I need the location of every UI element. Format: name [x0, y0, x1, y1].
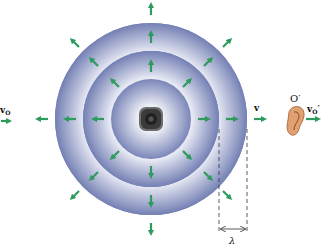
- observer-right-label: O′: [290, 94, 300, 104]
- ear-icon: [287, 106, 304, 135]
- wave-velocity-label: v: [254, 104, 259, 113]
- observer-right-velocity-label: vO′: [307, 105, 320, 115]
- wavelength-label: λ: [229, 236, 235, 246]
- doppler-diagram: [0, 0, 333, 251]
- observer-left-velocity-label: vO: [0, 106, 10, 116]
- speaker-icon: [139, 107, 163, 131]
